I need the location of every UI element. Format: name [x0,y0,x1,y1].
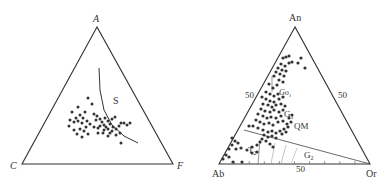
sample-point [256,112,259,115]
sample-point [263,109,266,112]
sample-point [120,142,123,145]
sample-point [289,120,292,123]
sample-point [115,134,118,137]
sample-point [233,139,236,142]
tick-label-right-50: 50 [338,90,348,100]
sample-point [281,56,284,59]
sample-point [231,160,234,163]
sample-point [75,117,78,120]
sample-point [114,116,117,119]
sample-point [261,102,264,105]
acf-sample-points [68,97,132,145]
sample-point [278,72,281,75]
sample-point [274,131,277,134]
sample-point [91,103,94,106]
sample-point [111,118,114,121]
sample-point [258,120,261,123]
sample-point [107,135,110,138]
field-label-go1: Go1 [279,88,291,98]
sample-point [270,105,273,108]
sample-point [97,132,100,135]
an-ab-or-diagram: An Ab Or 50 50 50 QM G1 G2 T2 Go1 [212,12,377,179]
sample-point [272,94,275,97]
sample-point [283,104,286,107]
sample-point [230,136,233,139]
sample-point [109,123,112,126]
sample-point [118,125,121,128]
sample-point [104,117,107,120]
sample-point [280,68,283,71]
sample-point [73,129,76,132]
sample-point [287,61,290,64]
sample-point [227,155,230,158]
sample-point [264,97,267,100]
sample-point [268,110,271,113]
sample-point [79,114,82,117]
sample-point [255,143,258,146]
sample-point [97,127,100,130]
sample-point [272,100,275,103]
sample-point [247,124,250,127]
sample-point [239,146,242,149]
sample-point [275,83,278,86]
sample-point [268,92,271,95]
sample-point [126,124,129,127]
sample-point [267,82,270,85]
sample-point [281,80,284,83]
sample-point [267,121,270,124]
sample-point [107,120,110,123]
sample-point [115,128,118,131]
sample-point [120,122,123,125]
sample-point [271,123,274,126]
sample-point [82,117,85,120]
sample-point [261,128,264,131]
sample-point [271,86,274,89]
field-label-g2: G2 [304,150,314,161]
sample-point [260,137,263,140]
sample-point [262,133,265,136]
sample-point [261,114,264,117]
sample-point [284,130,287,133]
sample-point [290,60,293,63]
sample-point [96,115,99,118]
sample-point [286,125,289,128]
feldspar-sample-points [221,54,306,163]
tick-label-left-50: 50 [245,90,255,100]
sample-point [81,136,84,139]
sample-point [71,111,74,114]
sample-point [276,66,279,69]
apex-label-a: A [92,13,100,24]
sample-point [280,132,283,135]
sample-point [282,74,285,77]
sample-point [274,116,277,119]
sample-point [93,113,96,116]
apex-label-ab: Ab [212,168,224,179]
sample-point [268,99,271,102]
sample-point [69,119,72,122]
sample-point [101,121,104,124]
sample-point [87,133,90,136]
sample-point [264,139,267,142]
apex-label-f: F [176,160,184,171]
sample-point [251,124,254,127]
sample-point [73,121,76,124]
sample-point [254,118,257,121]
sample-point [270,129,273,132]
region-label-s: S [113,95,119,106]
sample-point [107,128,110,131]
sample-point [285,122,288,125]
field-label-t2: T2 [248,145,257,156]
sample-point [83,130,86,133]
sample-point [81,122,84,125]
sample-point [103,129,106,132]
apex-label-or: Or [366,168,377,179]
sample-point [264,90,267,93]
field-boundary [281,145,286,164]
sample-point [272,74,275,77]
sample-point [95,119,98,122]
sample-point [274,103,277,106]
sample-point [303,66,306,69]
sample-point [84,111,87,114]
sample-point [279,62,282,65]
sample-point [227,147,230,150]
